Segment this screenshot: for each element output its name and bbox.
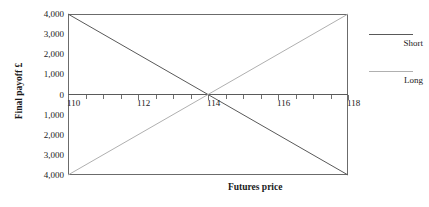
chart-legend: Short Long [363,14,429,104]
y-tick-label: 2,000 [24,50,64,59]
legend-label-long: Long [363,75,425,85]
legend-item-short: Short [363,34,425,48]
legend-item-long: Long [363,71,425,85]
data-lines [68,14,348,175]
x-tick-label: 114 [207,99,220,108]
legend-swatch-long-icon [369,71,413,72]
x-axis-title: Futures price [228,182,282,192]
legend-swatch-short-icon [369,34,413,35]
y-tick-label: 1,000 [24,111,64,120]
y-tick-label: 4,000 [24,10,64,19]
y-tick-label: 1,000 [24,70,64,79]
legend-label-short: Short [363,38,425,48]
payoff-chart-figure: 4,0003,0002,0001,00001,0002,0003,0004,00… [0,0,429,207]
y-tick-label: 3,000 [24,151,64,160]
y-tick-label: 3,000 [24,30,64,39]
y-tick-label: 4,000 [24,171,64,180]
y-tick-label: 0 [24,91,64,100]
y-tick-label: 2,000 [24,131,64,140]
x-tick-label: 110 [67,99,80,108]
x-tick-label: 112 [137,99,150,108]
x-tick-label: 118 [347,99,360,108]
y-axis-title: Final payoff £ [14,36,24,146]
y-axis-tick-labels: 4,0003,0002,0001,00001,0002,0003,0004,00… [22,0,64,207]
x-tick-label: 116 [277,99,290,108]
